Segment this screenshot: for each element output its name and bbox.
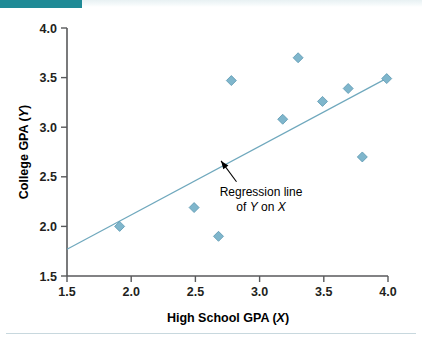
y-tick-label: 2.5: [40, 170, 57, 184]
x-tick-label: 4.0: [379, 285, 396, 299]
y-tick-label: 3.0: [40, 121, 57, 135]
annotation-arrow: [221, 161, 236, 182]
y-tick-label: 1.5: [40, 270, 57, 284]
x-tick-label: 3.5: [315, 285, 332, 299]
y-axis-ticks: 1.52.02.53.03.54.0: [40, 22, 67, 284]
annotation-prefix: of: [236, 200, 249, 214]
x-axis-title-close: ): [285, 311, 289, 325]
data-point-marker: [278, 114, 288, 124]
scatter-plot: 1.52.02.53.03.54.0 1.52.02.53.03.54.0 Re…: [0, 0, 422, 341]
y-axis-title-close: ): [17, 105, 31, 109]
x-tick-label: 2.5: [187, 285, 204, 299]
data-point-marker: [382, 74, 392, 84]
bottom-divider: [6, 333, 416, 334]
annotation-var-x: X: [277, 200, 287, 214]
y-axis-title-main: College GPA (: [17, 116, 31, 199]
data-point-marker: [226, 76, 236, 86]
data-point-marker: [318, 96, 328, 106]
x-tick-label: 3.0: [251, 285, 268, 299]
x-tick-label: 1.5: [58, 285, 75, 299]
x-tick-label: 2.0: [123, 285, 140, 299]
x-axis-title: High School GPA (X): [167, 311, 289, 325]
x-axis-ticks: 1.52.02.53.03.54.0: [58, 276, 396, 299]
y-tick-label: 2.0: [40, 220, 57, 234]
y-tick-label: 3.5: [40, 71, 57, 85]
y-axis-title: College GPA (Y): [17, 105, 31, 199]
regression-line: [67, 78, 388, 250]
data-point-marker: [357, 152, 367, 162]
x-axis-title-main: High School GPA (: [167, 311, 278, 325]
annotation-line-2: of Y on X: [236, 200, 286, 214]
y-tick-label: 4.0: [40, 22, 57, 36]
figure-container: 1.52.02.53.03.54.0 1.52.02.53.03.54.0 Re…: [0, 0, 422, 341]
annotation-line-1: Regression line: [220, 185, 303, 199]
data-point-marker: [343, 84, 353, 94]
annotation-mid: on: [258, 200, 278, 214]
data-point-marker: [189, 203, 199, 213]
data-point-marker: [293, 53, 303, 63]
data-point-marker: [214, 231, 224, 241]
